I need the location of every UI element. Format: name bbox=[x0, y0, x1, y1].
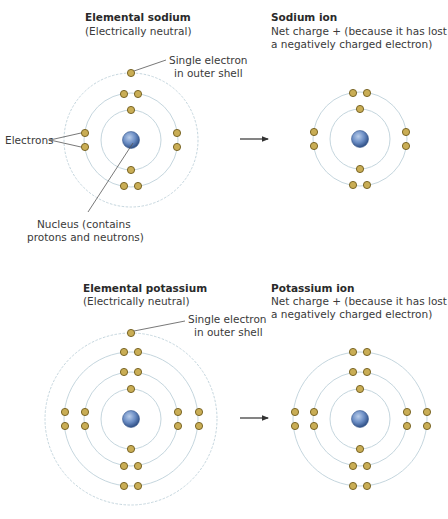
electrons-leader-1 bbox=[50, 133, 81, 140]
outer-electron-leader bbox=[134, 60, 166, 71]
nucleus-icon bbox=[352, 411, 369, 428]
outer-electron-leader bbox=[134, 321, 185, 331]
atom-diagrams bbox=[0, 0, 448, 519]
sodium-ion bbox=[310, 89, 409, 188]
potassium-ion bbox=[291, 348, 430, 489]
sodium-atom bbox=[50, 60, 198, 212]
nucleus-icon bbox=[352, 131, 369, 148]
nucleus-icon bbox=[123, 411, 140, 428]
nucleus-leader bbox=[88, 143, 133, 212]
potassium-atom bbox=[45, 321, 217, 505]
electrons-leader-2 bbox=[50, 140, 81, 147]
